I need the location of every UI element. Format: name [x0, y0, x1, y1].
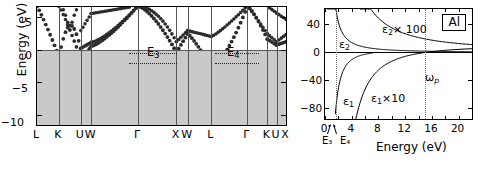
right-ytick-right-2: [468, 80, 472, 81]
left-y-tick-0: 0: [2, 49, 32, 62]
eps-curve: [356, 49, 472, 119]
eps2x100-label: ε2× 100: [382, 23, 427, 37]
eps2x100-label-suffix: × 100: [393, 23, 427, 36]
band-structure-plot-area: [36, 6, 287, 126]
material-label-box: Al: [442, 14, 466, 31]
left-xtick-label-6: W: [177, 128, 197, 141]
left-y-tick-m10: −10: [0, 116, 24, 129]
e3-label: E3: [147, 45, 160, 60]
e4-label-sub: 4: [234, 50, 239, 60]
right-ytick-3: [325, 108, 329, 109]
right-xtick-bottom-2: [338, 116, 339, 119]
eps1x10-label-suffix: ×10: [382, 92, 405, 105]
right-xtick-bottom-18: [445, 116, 446, 119]
eps1-label: ε1: [343, 95, 354, 109]
right-xtick-top-4: [352, 9, 353, 12]
right-xtick-top-16: [432, 9, 433, 12]
e3-dashed-line-2: [129, 63, 177, 64]
left-ytick-0: [37, 17, 42, 18]
right-e4-marker-label: E₄: [340, 135, 350, 146]
left-y-tick-m5: −5: [0, 82, 28, 95]
right-ytick-label-1: 0: [300, 46, 320, 58]
e4-dashed-line-2: [215, 63, 259, 64]
left-ytick-2: [37, 82, 42, 83]
eps2-label: ε2: [339, 38, 350, 52]
high-symmetry-line-X: [176, 7, 177, 125]
left-xtick-label-4: Γ: [127, 128, 147, 141]
right-xtick-bottom-16: [432, 116, 433, 119]
right-zero-line: [325, 52, 472, 53]
eps2-label-sub: 2: [345, 43, 350, 52]
right-xtick-bottom-14: [419, 116, 420, 119]
right-ytick-label-0: 40: [300, 18, 320, 30]
right-xtick-bottom-0: [325, 116, 326, 119]
right-e3-marker-label: E₃: [322, 135, 332, 146]
e3-vertical-dotted: [336, 9, 337, 119]
dielectric-plot-area: Al ε2 ε2× 100 ε1 ε1×10 ωp: [324, 8, 473, 120]
right-xtick-bottom-12: [405, 116, 406, 119]
eps1x10-label: ε1×10: [371, 92, 405, 106]
right-xtick-bottom-8: [378, 116, 379, 119]
right-xtick-top-10: [392, 9, 393, 12]
right-xtick-top-14: [419, 9, 420, 12]
left-y-tick-5: 5: [2, 16, 32, 29]
left-ytick-1: [37, 50, 42, 51]
left-xtick-label-11: X: [275, 128, 295, 141]
left-xtick-label-0: L: [26, 128, 46, 141]
right-ytick-right-1: [468, 52, 472, 53]
high-symmetry-line-W: [91, 7, 92, 125]
right-e3-text: E₃: [322, 135, 332, 146]
left-xtick-label-8: Γ: [236, 128, 256, 141]
right-xtick-bottom-22: [472, 116, 473, 119]
right-xtick-label-4: 16: [422, 122, 440, 134]
band-structure-panel: Energy (eV) 5 0 −5 −10 E3 E4: [0, 0, 300, 170]
high-symmetry-line-Γ: [138, 7, 139, 125]
right-ytick-2: [325, 80, 329, 81]
high-symmetry-line-U: [81, 7, 82, 125]
figure-root: Energy (eV) 5 0 −5 −10 E3 E4: [0, 0, 493, 170]
dielectric-function-panel: Al ε2 ε2× 100 ε1 ε1×10 ωp 400−40−80 0481…: [300, 0, 493, 170]
left-ytick-right-0: [281, 17, 286, 18]
right-xtick-bottom-20: [459, 116, 460, 119]
right-ytick-label-2: −40: [300, 74, 320, 86]
left-ytick-3: [37, 115, 42, 116]
right-ytick-0: [325, 24, 329, 25]
right-xtick-bottom-4: [352, 116, 353, 119]
right-xtick-top-12: [405, 9, 406, 12]
right-xtick-bottom-10: [392, 116, 393, 119]
left-xtick-label-1: K: [48, 128, 68, 141]
right-xtick-top-0: [325, 9, 326, 12]
right-xtick-bottom-6: [365, 116, 366, 119]
left-xtick-label-3: W: [80, 128, 100, 141]
left-xtick-label-7: L: [200, 128, 220, 141]
left-y-axis-title: Energy (eV): [14, 0, 29, 93]
right-xtick-top-20: [459, 9, 460, 12]
high-symmetry-line-U: [277, 7, 278, 125]
right-xtick-top-6: [365, 9, 366, 12]
right-ytick-1: [325, 52, 329, 53]
high-symmetry-line-L: [211, 7, 212, 125]
right-xtick-label-3: 12: [395, 122, 413, 134]
right-xtick-top-18: [445, 9, 446, 12]
right-xtick-top-8: [378, 9, 379, 12]
eps1-label-sub: 1: [349, 100, 354, 109]
omega-p-label-sub: p: [434, 76, 439, 85]
e3-label-sub: 3: [154, 50, 159, 60]
right-xtick-top-22: [472, 9, 473, 12]
right-ytick-right-3: [468, 108, 472, 109]
right-xtick-label-5: 20: [449, 122, 467, 134]
right-xtick-top-2: [338, 9, 339, 12]
high-symmetry-line-K: [267, 7, 268, 125]
high-symmetry-line-W: [188, 7, 189, 125]
e4-label: E4: [227, 45, 240, 60]
eps-curve: [335, 53, 372, 114]
high-symmetry-line-K: [59, 7, 60, 125]
right-ytick-label-3: −80: [300, 102, 320, 114]
e3-e4-arrows: [324, 122, 364, 136]
left-ytick-right-1: [281, 50, 286, 51]
left-ytick-right-3: [281, 115, 286, 116]
right-ytick-right-0: [468, 24, 472, 25]
omega-p-label-main: ω: [425, 71, 434, 84]
fermi-level-line: [37, 50, 286, 51]
omega-p-label: ωp: [425, 71, 439, 85]
